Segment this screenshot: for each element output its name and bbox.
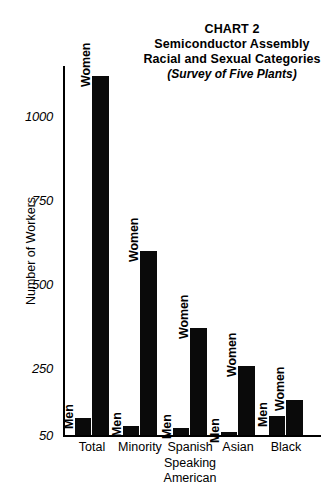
x-category-label-line: American (145, 471, 235, 487)
y-tick-label-750: 750 (0, 193, 53, 208)
x-axis-line (63, 435, 321, 437)
chart-title-line-1: CHART 2 (136, 22, 328, 37)
bar-spanish-women (190, 328, 207, 435)
bar-black-men (269, 416, 285, 435)
x-category-label-line: Speaking (145, 456, 235, 472)
x-category-label-line: Black (241, 440, 331, 456)
bar-label-spanish-women: Women (177, 294, 191, 338)
chart-title-line-3: Racial and Sexual Categories (136, 52, 328, 67)
bar-label-black-women: Women (273, 366, 287, 410)
bar-minority-men (123, 426, 139, 435)
y-axis-line (63, 66, 65, 435)
bar-black-women (286, 400, 303, 435)
bar-label-total-women: Women (79, 43, 93, 87)
y-tick-label-250: 250 (0, 360, 53, 375)
x-category-label-black: Black (241, 440, 331, 456)
bar-asian-women (238, 366, 255, 435)
bar-minority-women (140, 251, 157, 436)
bar-label-total-men: Men (62, 405, 76, 430)
y-tick-label-50: 50 (0, 428, 53, 443)
bar-label-asian-women: Women (225, 333, 239, 377)
bar-asian-men (221, 432, 237, 435)
bar-spanish-men (173, 428, 189, 435)
bar-label-spanish-men: Men (160, 414, 174, 439)
bar-total-men (75, 418, 91, 435)
y-tick-label-1000: 1000 (0, 109, 53, 124)
bar-label-black-men: Men (256, 402, 270, 427)
bar-label-minority-men: Men (110, 412, 124, 437)
bar-total-women (92, 76, 109, 435)
bar-label-minority-women: Women (127, 217, 141, 261)
plot-area: 1000 750 500 250 50 Men Women Men Women … (63, 66, 321, 435)
chart-title-line-2: Semiconductor Assembly (136, 37, 328, 52)
chart-container: CHART 2 Semiconductor Assembly Racial an… (0, 0, 331, 499)
y-tick-label-500: 500 (0, 277, 53, 292)
